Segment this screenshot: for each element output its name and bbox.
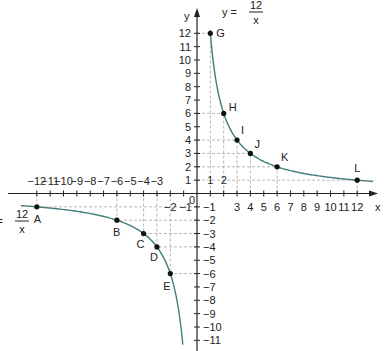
point-label-J: J [254,138,260,150]
equation-label-left-lhs: y = [0,215,3,227]
point-label-G: G [216,27,225,39]
x-tick-label: 6 [274,201,280,213]
x-tick-label: −9 [71,175,84,187]
y-tick-label: 4 [185,134,191,146]
point-label-I: I [241,124,244,136]
x-tick-label: 2 [221,174,227,186]
y-axis-arrow-icon [194,8,200,17]
x-axis-label: x [375,201,381,213]
x-tick-label: −5 [124,175,137,187]
y-tick-label: −10 [203,321,222,333]
equation-label-left-den: x [19,223,25,235]
x-tick-label: −1 [179,201,192,213]
y-tick-label: 10 [179,54,191,66]
data-point [248,151,253,156]
x-tick-label: 5 [261,201,267,213]
y-tick-label: 5 [185,121,191,133]
equation-label-right-den: x [253,14,259,26]
x-tick-label: −2 [164,201,177,213]
y-axis-label: y [184,10,190,22]
x-tick-label: 3 [234,201,240,213]
curve-negative-branch [21,206,183,345]
y-tick-label: 11 [180,41,191,53]
y-tick-label: −3 [203,228,216,240]
x-tick-label: −8 [84,175,97,187]
point-label-H: H [229,101,237,113]
x-tick-label: −6 [111,175,124,187]
point-label-L: L [354,162,360,174]
x-tick-label: −3 [151,175,164,187]
y-tick-label: 2 [185,161,191,173]
x-tick-label: 9 [314,201,320,213]
point-label-A: A [34,213,42,225]
data-point [141,231,146,236]
y-tick-label: −11 [203,334,221,346]
hyperbola-chart: xy0−12−11−10−9−8−7−6−5−4−33456789101112−… [0,0,388,351]
x-tick-label: 8 [301,201,307,213]
point-label-D: D [150,251,158,263]
data-point [154,244,159,249]
data-point [355,178,360,183]
y-tick-label: 7 [185,94,191,106]
y-tick-label: 3 [185,147,191,159]
y-tick-label: 9 [185,67,191,79]
x-axis-arrow-icon [369,191,378,197]
y-tick-label: −9 [203,308,216,320]
data-point [168,271,173,276]
point-label-E: E [163,280,170,292]
equation-label-right-lhs: y = [222,6,237,18]
equation-label-left-num: 12 [16,208,28,220]
y-tick-label: 6 [185,107,191,119]
x-tick-label: −7 [97,175,110,187]
y-tick-label: −7 [203,281,216,293]
data-point [114,218,119,223]
y-tick-label: 8 [185,81,191,93]
x-tick-label: 1 [207,174,213,186]
y-tick-label: −1 [203,201,216,213]
y-tick-label: −5 [203,254,216,266]
x-tick-label: 4 [247,201,253,213]
point-label-C: C [137,238,145,250]
y-tick-label: −4 [203,241,216,253]
y-tick-label: 1 [185,174,191,186]
x-tick-label: 10 [324,201,336,213]
equation-label-right-num: 12 [250,0,262,11]
x-tick-label: 7 [287,201,293,213]
y-tick-label: 12 [179,27,191,39]
data-point [234,138,239,143]
data-point [221,111,226,116]
point-label-K: K [281,151,289,163]
y-tick-label: −8 [203,294,216,306]
x-tick-label: 11 [338,201,349,213]
data-point [275,164,280,169]
y-tick-label: −2 [203,214,216,226]
point-label-B: B [113,226,120,238]
x-tick-label: −4 [137,175,150,187]
x-tick-label: 12 [351,201,363,213]
data-point [34,204,39,209]
y-tick-label: −6 [203,268,216,280]
data-point [208,31,213,36]
